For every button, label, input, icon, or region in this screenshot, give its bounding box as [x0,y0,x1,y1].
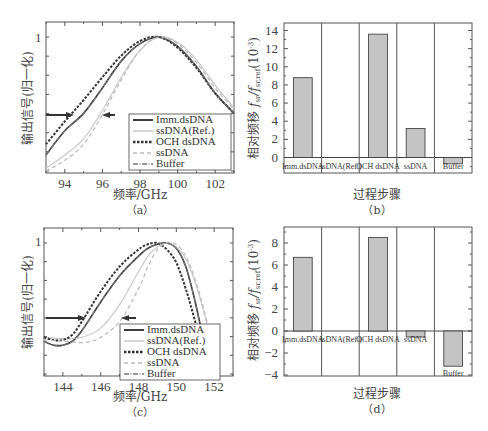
y-tick-label: 2 [272,301,279,316]
x-tick-label: 102 [205,176,225,191]
x-tick-label: 150 [167,379,187,394]
x-tick-label: 96 [96,176,110,191]
y-tick-label: 0 [272,150,279,165]
bar-category-label: ssDNA [404,335,428,344]
arrow-left-icon [121,315,136,321]
bar [293,257,312,331]
panel-d-bar-chart: −4−202468Imm.dsDNAssDNA(Ref.)OCH dsDNAss… [247,227,472,416]
bar-category-label: ssDNA [404,162,428,171]
x-axis-label-a: 频率/GHz [113,187,167,202]
x-tick-label: 94 [58,176,72,191]
legend-label: Buffer [156,157,185,169]
x-axis-label-c: 频率/GHz [113,389,167,404]
arrow-left-icon [102,112,115,118]
x-tick-label: 144 [53,379,73,394]
panel-c-line-chart: 144146148150152 1 输出信号(归一化) 频率/GHz （c） I… [20,228,233,419]
bars-d: −4−202468Imm.dsDNAssDNA(Ref.)OCH dsDNAss… [264,227,472,382]
x-axis-label-b: 过程步骤 [353,187,401,202]
y-tick-1-a: 1 [35,30,42,45]
y-axis-label-b: 相对频移 fsr/fsr,ref(10-3) [247,37,262,159]
arrow-right-icon [46,315,86,321]
caption-c: （c） [126,406,154,419]
bar-category-label: Buffer [443,369,464,378]
panel-a-line-chart: 949698100102 1 输出信号(归一化) 频率/GHz （a） Imm.… [20,22,234,217]
y-tick-label: 12 [265,41,278,56]
y-tick-label: 4 [272,113,279,128]
bar-category-label: OCH dsDNA [356,335,400,344]
legend-a: Imm.dsDNAssDNA(Ref.)OCH dsDNAssDNABuffer [129,113,231,170]
bar [293,78,312,158]
bar [369,34,388,157]
y-tick-label: 8 [272,77,279,92]
y-tick-label: 2 [272,131,279,146]
bars-b: 02468101214Imm.dsDNAssDNA(Ref.)OCH dsDNA… [265,23,472,173]
bar-category-label: OCH dsDNA [356,162,400,171]
x-axis-label-d: 过程步骤 [353,386,401,401]
legend-label: Buffer [147,367,176,379]
bar [444,331,463,366]
panel-b-bar-chart: 02468101214Imm.dsDNAssDNA(Ref.)OCH dsDNA… [247,23,472,217]
y-tick-1-c: 1 [35,234,42,249]
y-tick-label: −2 [264,345,278,360]
y-tick-label: 10 [265,59,278,74]
y-tick-label: 6 [272,95,279,110]
x-tick-label: 100 [168,176,188,191]
x-tick-label: 146 [91,379,111,394]
caption-d: （d） [362,403,391,416]
bar-category-label: Buffer [443,162,464,171]
bar-category-label: Imm.dsDNA [282,335,324,344]
y-tick-label: 6 [272,257,279,272]
bar [406,128,425,157]
bar [369,238,388,332]
y-tick-label: 8 [272,235,279,250]
x-tick-label: 152 [204,379,224,394]
y-axis-label-a: 输出信号(归一化) [20,51,35,144]
y-axis-label-d: 相对频移 fsr/fsr,ref(10-3) [247,239,262,361]
bar-category-label: Imm.dsDNA [282,162,324,171]
y-axis-label-c: 输出信号(归一化) [20,255,35,348]
y-tick-label: −4 [264,367,278,382]
y-tick-label: 4 [272,279,279,294]
y-tick-label: 0 [272,323,279,338]
legend-c: Imm.dsDNAssDNA(Ref.)OCH dsDNAssDNABuffer [120,323,220,380]
y-tick-label: 14 [265,23,279,38]
svg-text:相对频移 fsr/fsr,ref(10-3): 相对频移 fsr/fsr,ref(10-3) [247,239,262,361]
caption-a: （a） [126,204,155,217]
caption-b: （b） [362,204,391,217]
svg-text:相对频移 fsr/fsr,ref(10-3): 相对频移 fsr/fsr,ref(10-3) [247,37,262,159]
figure-canvas: 949698100102 1 输出信号(归一化) 频率/GHz （a） Imm.… [0,0,488,431]
